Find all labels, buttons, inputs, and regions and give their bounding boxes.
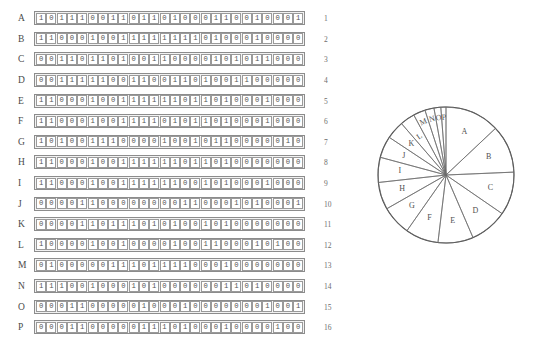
- bit-cell: 0: [293, 54, 303, 65]
- bit-cell: 1: [118, 116, 128, 127]
- bit-cell: 1: [118, 239, 128, 250]
- bit-cell: 0: [98, 95, 108, 106]
- bit-cell: 0: [221, 54, 231, 65]
- pie-slice-c[interactable]: [446, 172, 514, 213]
- bit-cell: 0: [88, 13, 98, 24]
- bit-cell: 1: [180, 301, 190, 312]
- bit-cell: 0: [67, 260, 77, 271]
- bit-cell: 1: [118, 219, 128, 230]
- pie-label-g: G: [409, 201, 415, 210]
- bit-cell: 0: [242, 95, 252, 106]
- bit-cell: 0: [231, 322, 241, 333]
- bit-cell: 1: [98, 54, 108, 65]
- matrix-row-cells: 01000001110111100010000000: [34, 258, 305, 272]
- pie-slice-g[interactable]: [387, 175, 446, 231]
- bit-cell: 0: [36, 322, 46, 333]
- matrix-row-label: L: [16, 240, 34, 250]
- bit-cell: 0: [180, 157, 190, 168]
- bit-cell: 0: [57, 95, 67, 106]
- bit-cell: 0: [67, 136, 77, 147]
- bit-cell: 1: [170, 178, 180, 189]
- bit-cell: 0: [262, 75, 272, 86]
- bit-cell: 0: [283, 281, 293, 292]
- matrix-row-number: 9: [324, 179, 344, 188]
- pie-label-b: B: [486, 152, 491, 161]
- bit-cell: 1: [180, 198, 190, 209]
- matrix-row-label: K: [16, 219, 34, 229]
- matrix-row-number: 5: [324, 96, 344, 105]
- bit-cell: 0: [211, 301, 221, 312]
- matrix-row: F110001001111010110100010006: [16, 111, 346, 132]
- pie-slice-i[interactable]: [378, 157, 446, 182]
- bit-cell: 1: [160, 157, 170, 168]
- bit-cell: 0: [231, 239, 241, 250]
- bit-cell: 1: [57, 13, 67, 24]
- bit-cell: 1: [36, 95, 46, 106]
- bit-cell: 1: [67, 322, 77, 333]
- bit-cell: 0: [273, 219, 283, 230]
- matrix-row-cells: 11000100111111011010001000: [34, 94, 305, 108]
- bit-cell: 0: [293, 33, 303, 44]
- bit-cell: 0: [139, 136, 149, 147]
- bit-cell: 1: [201, 75, 211, 86]
- bit-cell: 0: [293, 116, 303, 127]
- bit-cell: 1: [139, 33, 149, 44]
- bit-cell: 0: [170, 322, 180, 333]
- bit-cell: 0: [283, 322, 293, 333]
- matrix-row-label: C: [16, 54, 34, 64]
- bit-cell: 1: [221, 260, 231, 271]
- matrix-row: A101110011011010001100100011: [16, 8, 346, 29]
- bit-cell: 1: [180, 322, 190, 333]
- bit-cell: 1: [221, 322, 231, 333]
- matrix-row-number: 6: [324, 117, 344, 126]
- bit-cell: 0: [283, 95, 293, 106]
- bit-cell: 0: [262, 198, 272, 209]
- bit-cell: 0: [231, 13, 241, 24]
- pie-slice-e[interactable]: [438, 175, 473, 243]
- bit-cell: 1: [129, 157, 139, 168]
- pie-slice-b[interactable]: [446, 128, 514, 175]
- bit-cell: 0: [118, 281, 128, 292]
- bit-cell: 1: [149, 13, 159, 24]
- bit-cell: 0: [129, 54, 139, 65]
- bit-cell: 0: [231, 157, 241, 168]
- bit-cell: 1: [139, 13, 149, 24]
- bit-cell: 0: [88, 301, 98, 312]
- matrix-row-cells: 11000100111111001010001000: [34, 176, 305, 190]
- bit-cell: 0: [67, 281, 77, 292]
- bit-cell: 0: [283, 13, 293, 24]
- bit-cell: 0: [77, 239, 87, 250]
- bit-cell: 0: [293, 281, 303, 292]
- bit-cell: 0: [57, 116, 67, 127]
- bit-cell: 0: [160, 116, 170, 127]
- bit-cell: 1: [160, 33, 170, 44]
- bit-cell: 1: [88, 281, 98, 292]
- bit-cell: 1: [160, 95, 170, 106]
- matrix-row-cells: 00011000001110100010000100: [34, 320, 305, 334]
- bit-cell: 1: [36, 239, 46, 250]
- bit-cell: 0: [149, 301, 159, 312]
- bit-cell: 1: [211, 54, 221, 65]
- matrix-row: N1110010001010000001101000014: [16, 276, 346, 297]
- matrix-row-label: G: [16, 137, 34, 147]
- figure-root: A101110011011010001100100011B11000100111…: [0, 0, 539, 359]
- bit-cell: 0: [46, 219, 56, 230]
- bit-cell: 1: [190, 157, 200, 168]
- bit-cell: 1: [108, 219, 118, 230]
- bit-cell: 1: [129, 116, 139, 127]
- pie-label-k: K: [408, 139, 414, 148]
- bit-cell: 1: [46, 260, 56, 271]
- bit-cell: 0: [293, 322, 303, 333]
- matrix-row-cells: 10111001101101000110010001: [34, 11, 305, 25]
- bit-cell: 1: [139, 75, 149, 86]
- bit-cell: 1: [293, 13, 303, 24]
- matrix-row-number: 11: [324, 220, 344, 229]
- bit-cell: 0: [108, 75, 118, 86]
- bit-cell: 0: [36, 219, 46, 230]
- pie-slice-a[interactable]: [446, 107, 495, 175]
- bit-cell: 0: [221, 239, 231, 250]
- bit-cell: 0: [180, 95, 190, 106]
- bit-cell: 0: [190, 260, 200, 271]
- pie-label-e: E: [450, 216, 455, 225]
- bit-cell: 0: [231, 136, 241, 147]
